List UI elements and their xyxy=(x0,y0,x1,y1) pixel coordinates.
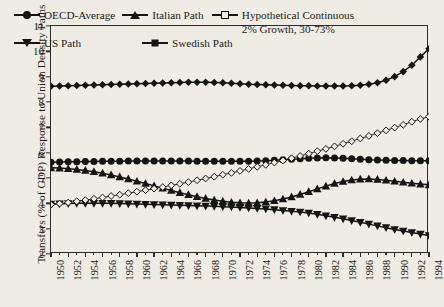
x-tick-label: 1952 xyxy=(72,260,83,280)
legend-label: Hypothetical Continuous 2% Growth, 30-73… xyxy=(242,8,364,36)
filled-down-triangle-icon xyxy=(14,36,40,50)
data-point xyxy=(426,157,430,164)
legend-row: OECD-Average Italian Path Hypothetical C… xyxy=(14,8,364,36)
data-point xyxy=(142,187,149,194)
x-tick-mark xyxy=(68,252,69,257)
data-point xyxy=(357,156,364,163)
chart-legend: OECD-Average Italian Path Hypothetical C… xyxy=(14,8,364,50)
data-point xyxy=(245,165,252,172)
data-point xyxy=(107,81,115,89)
x-tick-label: 1994 xyxy=(433,260,444,280)
data-point xyxy=(245,158,252,165)
x-tick-label: 1980 xyxy=(313,260,324,280)
data-point xyxy=(400,121,407,128)
data-point xyxy=(400,157,407,164)
data-point xyxy=(73,158,80,165)
x-tick-label: 1984 xyxy=(347,260,358,280)
x-tick-label: 1982 xyxy=(330,260,341,280)
data-point xyxy=(219,158,226,165)
data-point xyxy=(142,158,149,165)
x-tick-mark xyxy=(325,252,326,257)
data-point xyxy=(348,138,355,145)
data-point xyxy=(142,80,150,88)
x-tick-mark xyxy=(308,252,309,257)
data-point xyxy=(296,82,304,90)
data-point xyxy=(322,82,330,90)
x-tick-mark xyxy=(222,252,223,257)
data-point xyxy=(194,158,201,165)
data-point xyxy=(193,78,201,86)
x-tick-mark-minor xyxy=(265,252,266,255)
x-tick-label: 1968 xyxy=(210,260,221,280)
legend-item-oecd-average: OECD-Average xyxy=(14,8,122,22)
x-tick-label: 1962 xyxy=(158,260,169,280)
data-point xyxy=(125,190,132,197)
open-diamond-icon xyxy=(212,8,238,22)
data-point xyxy=(125,80,133,88)
data-point xyxy=(211,173,218,180)
data-point xyxy=(99,158,106,165)
data-point xyxy=(176,79,184,87)
filled-up-triangle-icon xyxy=(122,8,148,22)
x-tick-mark xyxy=(257,252,258,257)
data-point xyxy=(331,82,339,90)
x-tick-mark-minor xyxy=(145,252,146,255)
data-point xyxy=(168,182,175,189)
data-point xyxy=(417,116,424,123)
data-point xyxy=(408,118,415,125)
data-point xyxy=(176,158,183,165)
x-tick-mark-minor xyxy=(179,252,180,255)
data-point xyxy=(210,79,218,87)
data-point xyxy=(228,170,235,177)
data-point xyxy=(168,158,175,165)
x-tick-label: 1972 xyxy=(244,260,255,280)
x-tick-mark-minor xyxy=(420,252,421,255)
data-point xyxy=(194,177,201,184)
y-tick-label: 8 xyxy=(39,96,52,108)
series-canvas xyxy=(51,26,429,254)
legend-item-us-path: US Path xyxy=(14,36,142,50)
data-point xyxy=(99,81,107,89)
y-tick-label: 3 xyxy=(39,223,52,235)
data-point xyxy=(90,81,98,89)
data-point xyxy=(374,79,382,87)
data-point xyxy=(159,79,167,87)
x-tick-mark xyxy=(102,252,103,257)
x-tick-mark xyxy=(153,252,154,257)
data-point xyxy=(51,82,55,90)
data-point xyxy=(133,80,141,88)
y-tick-label: 9 xyxy=(39,71,52,83)
data-point xyxy=(426,113,429,120)
x-tick-mark-minor xyxy=(128,252,129,255)
data-point xyxy=(65,199,72,206)
data-point xyxy=(237,158,244,165)
x-tick-label: 1974 xyxy=(261,260,272,280)
data-point xyxy=(365,133,372,140)
data-point xyxy=(374,130,381,137)
data-point xyxy=(357,135,364,142)
x-tick-mark xyxy=(136,252,137,257)
data-point xyxy=(219,171,226,178)
x-tick-mark xyxy=(291,252,292,257)
x-tick-mark-minor xyxy=(231,252,232,255)
x-tick-mark-minor xyxy=(300,252,301,255)
x-tick-mark-minor xyxy=(403,252,404,255)
data-point xyxy=(185,158,192,165)
data-point xyxy=(236,80,244,88)
data-point xyxy=(339,82,347,90)
x-tick-mark-minor xyxy=(368,252,369,255)
x-tick-mark-minor xyxy=(385,252,386,255)
x-tick-label: 1976 xyxy=(278,260,289,280)
data-point xyxy=(211,158,218,165)
x-tick-mark-minor xyxy=(248,252,249,255)
legend-label: Italian Path xyxy=(152,8,203,22)
x-tick-label: 1964 xyxy=(175,260,186,280)
data-point xyxy=(125,158,132,165)
x-tick-mark xyxy=(50,252,51,257)
legend-label: US Path xyxy=(44,36,81,50)
x-tick-mark-minor xyxy=(196,252,197,255)
data-point xyxy=(134,188,141,195)
legend-item-swedish-path: Swedish Path xyxy=(142,36,248,50)
x-tick-label: 1954 xyxy=(89,260,100,280)
